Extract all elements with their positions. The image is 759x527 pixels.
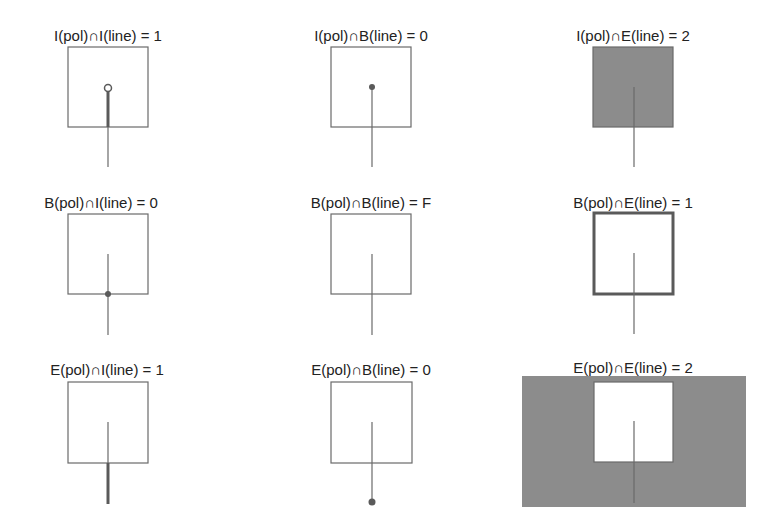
label-ei: E(pol)∩I(line) = 1 [50, 361, 164, 378]
label-ib: I(pol)∩B(line) = 0 [314, 27, 428, 44]
cell-ib [331, 47, 411, 167]
label-ii: I(pol)∩I(line) = 1 [54, 27, 162, 44]
cell-ii [68, 47, 148, 167]
label-bb: B(pol)∩B(line) = F [311, 194, 431, 211]
cell-ee [522, 376, 746, 507]
label-be: B(pol)∩E(line) = 1 [573, 194, 693, 211]
cell-ie [593, 47, 673, 167]
label-ie: I(pol)∩E(line) = 2 [576, 27, 690, 44]
cell-bi [68, 214, 148, 335]
cell-be [594, 213, 673, 334]
label-eb: E(pol)∩B(line) = 0 [311, 361, 431, 378]
diagram-canvas [0, 0, 759, 527]
label-bi: B(pol)∩I(line) = 0 [44, 194, 158, 211]
cell-ei [68, 382, 148, 504]
label-ee: E(pol)∩E(line) = 2 [573, 359, 693, 376]
cell-bb [331, 214, 411, 335]
cell-eb [331, 382, 412, 506]
